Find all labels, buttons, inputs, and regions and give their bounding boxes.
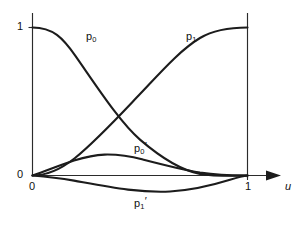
curve-p1-prime bbox=[33, 176, 248, 192]
curve-label-p0-subscript: 0 bbox=[92, 35, 96, 44]
x-axis-tick-label-zero: 0 bbox=[29, 181, 35, 192]
curve-label-p1-prime-subscript: 1 bbox=[140, 202, 144, 211]
curve-label-p1-prime-mark: ′ bbox=[145, 195, 147, 207]
curve-label-p1: p1 bbox=[186, 31, 196, 42]
curve-label-p0-prime-mark: ′ bbox=[145, 140, 147, 152]
x-axis-arrowhead bbox=[266, 171, 281, 181]
x-axis-name-label: u bbox=[285, 181, 291, 192]
curve-label-p1-subscript: 1 bbox=[192, 35, 196, 44]
y-axis-tick-label-one: 1 bbox=[17, 21, 23, 32]
y-axis-tick-label-zero: 0 bbox=[17, 169, 23, 180]
curve-label-p0-prime: p0′ bbox=[134, 143, 146, 154]
curve-label-p0-prime-subscript: 0 bbox=[140, 147, 144, 156]
figure-root: 1 0 0 1 u p0 p1 p0′ p1′ bbox=[0, 0, 299, 226]
x-axis-tick-label-one: 1 bbox=[245, 181, 251, 192]
curve-label-p0: p0 bbox=[86, 31, 96, 42]
plot-canvas bbox=[0, 0, 299, 226]
curve-label-p1-prime: p1′ bbox=[134, 198, 146, 209]
